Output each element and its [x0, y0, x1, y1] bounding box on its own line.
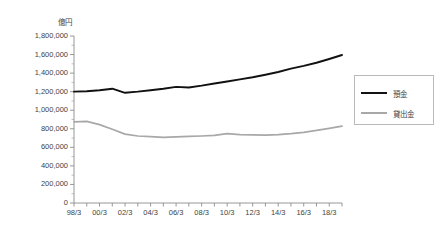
y-axis-tick-label: 1,200,000: [35, 88, 68, 96]
y-axis-tick-label: 0: [64, 199, 68, 207]
chart-legend: 預金 貸出金: [354, 75, 434, 125]
y-axis-tick-label: 800,000: [41, 125, 68, 133]
legend-line-swatch-deposits: [361, 92, 387, 94]
line-chart: 億円 0200,000400,000600,000800,0001,000,00…: [0, 0, 441, 239]
legend-label-deposits: 預金: [393, 88, 407, 99]
y-axis-tick-label: 1,800,000: [35, 32, 68, 40]
y-axis-tick-label: 1,400,000: [35, 69, 68, 77]
legend-label-loans: 貸出金: [393, 108, 414, 119]
y-axis-tick-label: 400,000: [41, 162, 68, 170]
legend-line-swatch-loans: [361, 112, 387, 114]
y-axis-tick-label: 1,600,000: [35, 51, 68, 59]
y-axis-tick-label: 200,000: [41, 180, 68, 188]
legend-item-loans: 貸出金: [361, 108, 414, 118]
y-axis-tick-label: 600,000: [41, 143, 68, 151]
legend-item-deposits: 預金: [361, 88, 407, 98]
y-axis-tick-label: 1,000,000: [35, 106, 68, 114]
x-axis-tick-label: 18/3: [314, 209, 344, 217]
